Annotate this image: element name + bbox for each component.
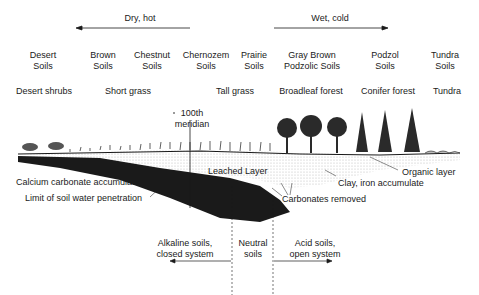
veg-desert-shrubs: Desert shrubs — [12, 86, 76, 97]
soil-gray-brown-podzolic: Gray BrownPodzolic Soils — [280, 50, 344, 72]
organic-layer-label: Organic layer — [402, 167, 456, 178]
acid-label: Acid soils,open system — [280, 238, 350, 260]
veg-broadleaf-forest: Broadleaf forest — [276, 86, 346, 97]
soil-prairie: PrairieSoils — [237, 50, 271, 72]
meridian-label: 100thmeridian — [170, 108, 214, 130]
soil-desert: DesertSoils — [18, 50, 68, 72]
dry-arrow — [76, 26, 190, 30]
veg-tundra: Tundra — [427, 86, 467, 97]
carbonates-removed-label: Carbonates removed — [282, 194, 366, 205]
soil-diagram: Dry, hot Wet, cold DesertSoils BrownSoil… — [0, 0, 479, 295]
wet-arrow — [274, 26, 388, 30]
veg-tall-grass: Tall grass — [210, 86, 260, 97]
clay-iron-label: Clay, iron accumulate — [338, 178, 424, 189]
calcium-carbonate-label: Calcium carbonate accumulates — [16, 177, 144, 188]
soil-brown: BrownSoils — [81, 50, 125, 72]
neutral-label: Neutralsoils — [234, 238, 272, 260]
dry-hot-label: Dry, hot — [115, 13, 165, 24]
soil-chernozem: ChernozemSoils — [178, 50, 234, 72]
alkaline-label: Alkaline soils,closed system — [140, 238, 230, 260]
water-limit-label: Limit of soil water penetration — [25, 193, 142, 204]
veg-short-grass: Short grass — [100, 86, 156, 97]
soil-podzol: PodzolSoils — [365, 50, 405, 72]
veg-conifer-forest: Conifer forest — [356, 86, 420, 97]
leached-layer-label: Leached Layer — [208, 166, 268, 177]
soil-chestnut: ChestnutSoils — [127, 50, 177, 72]
soil-tundra: TundraSoils — [425, 50, 465, 72]
wet-cold-label: Wet, cold — [305, 13, 355, 24]
